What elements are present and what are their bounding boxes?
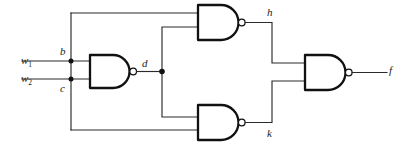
gate-nand-1-body (90, 55, 130, 88)
wire-h-to-output-gate (245, 23, 305, 64)
gate-nand-output-inversion-bubble (346, 69, 353, 76)
gate-nand-top-body (198, 5, 239, 40)
gate-nand-bottom-body (198, 105, 239, 140)
wire-d-to-top-gate (162, 27, 198, 72)
wire-d-to-bottom-gate (162, 72, 198, 118)
label-input-w2: w2 (21, 73, 32, 87)
label-node-d: d (142, 58, 148, 69)
logic-circuit-diagram: w1 w2 b c d h k f (0, 0, 413, 151)
junction-dot-c (69, 77, 74, 82)
circuit-schematic-svg (0, 0, 413, 151)
label-node-c: c (60, 83, 65, 94)
label-input-w1: w1 (21, 55, 32, 69)
junction-dot-b (69, 59, 74, 64)
gate-nand-output-body (305, 55, 346, 90)
label-node-h: h (267, 7, 273, 18)
gate-nand-bottom-inversion-bubble (239, 119, 246, 126)
junction-dot-d (159, 69, 165, 75)
wire-k-to-output-gate (245, 81, 305, 123)
label-node-b: b (60, 46, 66, 57)
gate-nand-1-inversion-bubble (130, 68, 137, 75)
gate-nand-top-inversion-bubble (239, 19, 246, 26)
label-output-f: f (389, 65, 392, 76)
label-node-k: k (267, 128, 272, 139)
